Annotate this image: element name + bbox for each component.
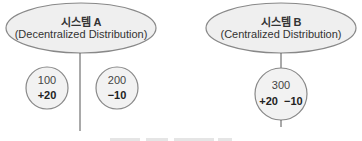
system-a-subtitle: (Decentralized Distribution) xyxy=(6,28,156,40)
node-300-circle xyxy=(255,68,307,120)
system-b-subtitle: (Centralized Distribution) xyxy=(206,28,356,40)
system-a-title: 시스템 A xyxy=(6,13,156,29)
node-100-value: 100 xyxy=(26,74,68,86)
figure-caption-clipped xyxy=(110,136,240,141)
node-300-deltas: +20 −10 xyxy=(255,95,307,107)
node-300-value: 300 xyxy=(255,79,307,91)
node-300-delta-plus: +20 xyxy=(259,95,278,107)
node-200-delta: −10 xyxy=(96,89,138,101)
node-200-value: 200 xyxy=(96,74,138,86)
node-100-delta: +20 xyxy=(26,89,68,101)
system-b-title: 시스템 B xyxy=(206,13,356,29)
node-300-delta-minus: −10 xyxy=(284,95,303,107)
